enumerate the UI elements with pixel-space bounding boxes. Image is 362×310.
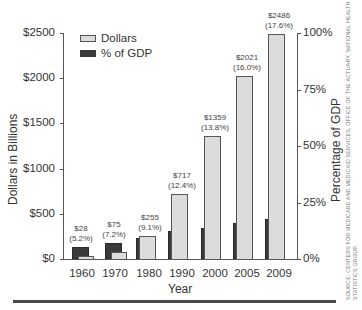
y-tick-left xyxy=(60,259,64,260)
x-tick-label-2000: 2000 xyxy=(198,267,232,279)
legend-swatch-gdp xyxy=(80,50,96,57)
y-tick-left xyxy=(60,123,64,124)
y-tick-label-left: $0 xyxy=(5,252,55,264)
y-tick-label-left: $500 xyxy=(5,207,55,219)
bar-dollars-1980 xyxy=(139,236,156,260)
x-tick-label-1960: 1960 xyxy=(65,267,99,279)
y-tick-right xyxy=(297,146,301,147)
x-tick-label-1990: 1990 xyxy=(165,267,199,279)
legend-item-gdp: % of GDP xyxy=(80,47,152,59)
legend-label-gdp: % of GDP xyxy=(101,47,152,59)
y-axis-title-right: Percentage of GDP xyxy=(329,98,343,202)
y-tick-right xyxy=(297,203,301,204)
bar-dollars-1970 xyxy=(111,252,127,260)
bar-label-dollars-1980: $255 xyxy=(130,213,170,223)
legend-swatch-dollars xyxy=(80,35,96,42)
y-tick-right xyxy=(297,259,301,260)
bar-dollars-1960 xyxy=(78,256,94,260)
bar-label-pct-2009: (17.6%) xyxy=(259,21,299,31)
bar-label-dollars-1970: $75 xyxy=(94,220,134,230)
y-tick-label-left: $2500 xyxy=(5,26,55,38)
x-tick-label-2009: 2009 xyxy=(262,267,296,279)
bar-dollars-2009 xyxy=(268,34,285,260)
y-tick-left xyxy=(60,214,64,215)
y-tick-label-right: 0% xyxy=(303,252,343,264)
x-tick-label-1970: 1970 xyxy=(98,267,132,279)
bar-dollars-2005 xyxy=(236,76,253,260)
y-tick-label-right: 75% xyxy=(303,83,343,95)
bar-label-dollars-2005: $2021 xyxy=(227,53,267,63)
bar-label-pct-1990: (12.4%) xyxy=(162,181,202,191)
y-tick-label-left: $2000 xyxy=(5,71,55,83)
bar-label-dollars-2000: $1359 xyxy=(195,113,235,123)
y-tick-right xyxy=(297,33,301,34)
y-tick-left xyxy=(60,78,64,79)
bar-label-dollars-1990: $717 xyxy=(162,171,202,181)
bar-dollars-2000 xyxy=(204,136,221,260)
y-tick-left xyxy=(60,33,64,34)
x-axis-title: Year xyxy=(168,282,192,296)
x-tick-label-1980: 1980 xyxy=(132,267,166,279)
bar-label-pct-2000: (13.8%) xyxy=(195,123,235,133)
bar-label-pct-1980: (9.1%) xyxy=(130,223,170,233)
y-tick-right xyxy=(297,90,301,91)
bar-label-pct-1970: (7.2%) xyxy=(94,230,134,240)
source-note-line1: SOURCE: CENTERS FOR MEDICARE AND MEDICAI… xyxy=(345,1,352,300)
bar-label-dollars-2009: $2486 xyxy=(259,11,299,21)
y-axis-title-left: Dollars in Billions xyxy=(6,114,20,205)
source-note-line2: STATISTICS GROUP. xyxy=(352,245,359,300)
bar-dollars-1990 xyxy=(171,194,188,260)
x-tick-label-2005: 2005 xyxy=(230,267,264,279)
bar-label-pct-2005: (16.0%) xyxy=(227,63,267,73)
y-tick-label-right: 100% xyxy=(303,26,343,38)
bottom-rule xyxy=(13,300,336,303)
legend-item-dollars: Dollars xyxy=(80,32,137,44)
y-tick-left xyxy=(60,169,64,170)
legend-label-dollars: Dollars xyxy=(101,32,137,44)
